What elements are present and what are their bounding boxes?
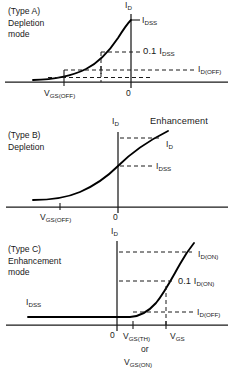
type-c-origin-label: 0 [110,330,115,341]
chart-panel-type-b: (Type B) Depletion ID Enhancement ID IDS… [0,108,233,223]
type-c-idss-label: IDSS [26,297,41,308]
type-c-or-label: or [141,344,149,355]
type-b-id-label: ID [166,139,173,150]
type-b-vgsoff-label: VGS(OFF) [40,212,71,223]
type-b-enhancement-label: Enhancement [150,116,208,127]
type-b-idss-label: IDSS [156,161,171,172]
type-a-caption: (Type A) Depletion mode [8,6,44,41]
type-c-vgson-label: VGS(ON) [124,357,152,368]
type-a-idoff-label: ID(OFF) [198,64,221,75]
type-b-y-axis-label: ID [112,116,119,127]
type-c-idon-label: ID(ON) [198,249,218,260]
type-c-y-axis-label: ID [111,226,118,237]
type-b-transfer-curve [33,131,168,200]
chart-panel-type-c: (Type C) Enhancement mode ID IDSS ID(ON)… [0,224,233,379]
fet-transfer-characteristics-figure: (Type A) Depletion mode ID IDSS 0.1 IDSS… [0,0,233,379]
type-b-caption: (Type B) Depletion [8,130,44,153]
type-a-point-one-idss-label: 0.1 IDSS [143,45,175,57]
type-c-point-one-idon-label: 0.1 ID(ON) [178,276,214,287]
type-c-vgsth-label: VGS(TH) [123,331,150,342]
type-c-caption: (Type C) Enhancement mode [8,244,61,279]
type-c-idoff-label: ID(OFF) [197,307,220,318]
type-a-y-axis-label: ID [125,0,132,11]
type-b-origin-label: 0 [113,212,118,223]
chart-panel-type-a: (Type A) Depletion mode ID IDSS 0.1 IDSS… [0,0,233,110]
type-a-transfer-curve [33,20,131,80]
type-a-idss-label: IDSS [142,15,157,26]
type-a-vgsoff-label: VGS(OFF) [44,88,75,99]
type-a-origin-label: 0 [126,88,131,99]
type-c-vgs-label: VGS [170,331,185,342]
